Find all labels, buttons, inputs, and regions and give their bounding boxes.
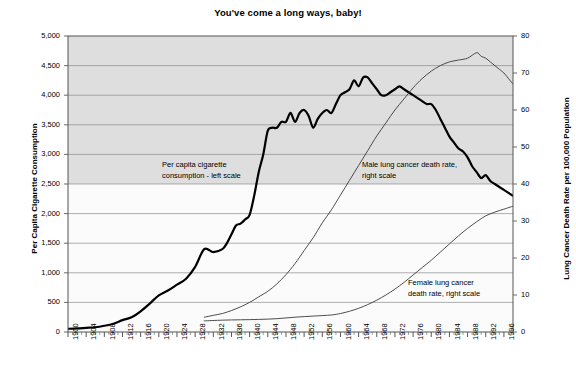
x-axis-tick-label: 1912 bbox=[126, 323, 135, 340]
annotation-cigarette-line2: consumption - left scale bbox=[162, 170, 241, 181]
y-axis-left-tick-label: 5,000 bbox=[20, 31, 60, 40]
x-axis-tick-label: 1944 bbox=[271, 323, 280, 340]
x-axis-tick-label: 1952 bbox=[307, 323, 316, 340]
x-axis-tick-label: 1976 bbox=[416, 323, 425, 340]
x-axis-tick-label: 1940 bbox=[253, 323, 262, 340]
x-axis-tick-label: 1932 bbox=[217, 323, 226, 340]
x-axis-tick-label: 1924 bbox=[180, 323, 189, 340]
x-axis-tick-label: 1980 bbox=[434, 323, 443, 340]
plot-background-lower bbox=[68, 184, 513, 332]
x-axis-tick-label: 1972 bbox=[398, 323, 407, 340]
y-axis-left-tick-label: 2,000 bbox=[20, 209, 60, 218]
x-axis-tick-label: 1920 bbox=[162, 323, 171, 340]
chart-title: You've come a long ways, baby! bbox=[0, 7, 576, 18]
y-axis-right-tick-label: 0 bbox=[521, 327, 561, 336]
y-axis-left-tick-label: 2,500 bbox=[20, 179, 60, 188]
annotation-female-line2: death rate, right scale bbox=[408, 288, 480, 299]
x-axis-tick-label: 1904 bbox=[89, 323, 98, 340]
x-axis-tick-label: 1968 bbox=[380, 323, 389, 340]
x-axis-tick-label: 1948 bbox=[289, 323, 298, 340]
annotation-cigarette-line1: Per capita cigarette bbox=[162, 159, 241, 170]
y-axis-right-tick-label: 20 bbox=[521, 253, 561, 262]
y-axis-right-tick-label: 60 bbox=[521, 105, 561, 114]
x-axis-tick-label: 1908 bbox=[108, 323, 117, 340]
x-axis-tick-label: 1960 bbox=[344, 323, 353, 340]
chart-container: You've come a long ways, baby! Per Capit… bbox=[0, 0, 576, 377]
x-axis-tick-label: 1996 bbox=[507, 323, 516, 340]
y-axis-left-tick-label: 3,000 bbox=[20, 149, 60, 158]
plot-area bbox=[0, 0, 576, 377]
x-axis-tick-label: 1988 bbox=[471, 323, 480, 340]
annotation-male-line1: Male lung cancer death rate, bbox=[362, 159, 457, 170]
y-axis-right-title: Lung Cancer Death Rate per 100,000 Popul… bbox=[562, 54, 571, 324]
y-axis-right-tick-label: 50 bbox=[521, 142, 561, 151]
x-axis-tick-label: 1992 bbox=[489, 323, 498, 340]
y-axis-right-tick-label: 40 bbox=[521, 179, 561, 188]
y-axis-left-tick-label: 500 bbox=[20, 297, 60, 306]
y-axis-left-tick-label: 0 bbox=[20, 327, 60, 336]
y-axis-left-tick-label: 4,500 bbox=[20, 61, 60, 70]
y-axis-right-tick-label: 80 bbox=[521, 31, 561, 40]
y-axis-left-tick-label: 1,500 bbox=[20, 238, 60, 247]
y-axis-left-tick-label: 1,000 bbox=[20, 268, 60, 277]
x-axis-tick-label: 1900 bbox=[71, 323, 80, 340]
y-axis-left-tick-label: 3,500 bbox=[20, 120, 60, 129]
x-axis-tick-label: 1956 bbox=[325, 323, 334, 340]
y-axis-right-tick-label: 70 bbox=[521, 68, 561, 77]
x-axis-tick-label: 1964 bbox=[362, 323, 371, 340]
y-axis-left-title: Per Capita Cigarette Consumption bbox=[30, 89, 39, 289]
x-axis-tick-label: 1984 bbox=[453, 323, 462, 340]
x-axis-tick-label: 1936 bbox=[235, 323, 244, 340]
x-axis-tick-label: 1916 bbox=[144, 323, 153, 340]
y-axis-right-tick-label: 10 bbox=[521, 290, 561, 299]
annotation-female: Female lung cancer death rate, right sca… bbox=[408, 277, 480, 299]
y-axis-left-tick-label: 4,000 bbox=[20, 90, 60, 99]
annotation-male: Male lung cancer death rate, right scale bbox=[362, 159, 457, 181]
annotation-female-line1: Female lung cancer bbox=[408, 277, 480, 288]
x-axis-tick-label: 1928 bbox=[198, 323, 207, 340]
annotation-cigarette: Per capita cigarette consumption - left … bbox=[162, 159, 241, 181]
y-axis-right-tick-label: 30 bbox=[521, 216, 561, 225]
annotation-male-line2: right scale bbox=[362, 170, 457, 181]
